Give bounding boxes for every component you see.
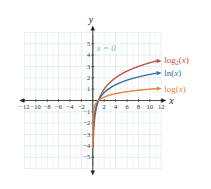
svg-text:−4: −4 (83, 142, 91, 149)
svg-text:12: 12 (158, 103, 165, 110)
svg-text:ln(x): ln(x) (164, 68, 181, 78)
svg-text:x = 0: x = 0 (96, 43, 117, 53)
svg-text:−5: −5 (83, 153, 90, 160)
svg-text:x: x (168, 95, 174, 106)
svg-text:2: 2 (87, 74, 90, 81)
svg-text:5: 5 (87, 40, 90, 47)
svg-text:−1: −1 (83, 108, 90, 115)
tick-labels: −12−10−8−6−4−22468101254321−1−2−3−4−5xyx… (19, 14, 174, 161)
svg-text:−10: −10 (31, 103, 41, 110)
svg-text:log(x): log(x) (164, 84, 186, 94)
legend-labels: log2(x)ln(x)log(x) (164, 55, 189, 95)
chart: −12−10−8−6−4−22468101254321−1−2−3−4−5xyx… (0, 0, 211, 189)
svg-text:−12: −12 (19, 103, 29, 110)
svg-text:−8: −8 (44, 103, 51, 110)
svg-text:10: 10 (147, 103, 154, 110)
svg-text:log2(x): log2(x) (164, 55, 189, 66)
svg-text:4: 4 (114, 103, 118, 110)
svg-text:4: 4 (87, 51, 91, 58)
svg-text:−2: −2 (83, 119, 90, 126)
svg-text:6: 6 (125, 103, 129, 110)
svg-text:3: 3 (87, 63, 90, 70)
svg-text:8: 8 (137, 103, 140, 110)
svg-text:2: 2 (103, 103, 106, 110)
svg-text:−4: −4 (67, 103, 75, 110)
svg-text:−6: −6 (55, 103, 63, 110)
svg-text:y: y (88, 14, 94, 25)
svg-text:1: 1 (87, 85, 90, 92)
svg-text:−3: −3 (83, 131, 90, 138)
